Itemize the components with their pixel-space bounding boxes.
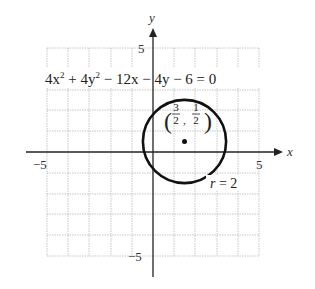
- svg-text:3: 3: [173, 101, 179, 113]
- circle-graph: ( ) 3 2 , 1 2 4x2 + 4y2 − 12x − 4y − 6 =…: [0, 0, 315, 289]
- svg-text:): ): [204, 108, 212, 134]
- svg-text:1: 1: [193, 101, 199, 113]
- equation-label: 4x2 + 4y2 − 12x − 4y − 6 = 0: [45, 70, 216, 87]
- x-min-label: −5: [33, 157, 47, 172]
- x-axis-label: x: [286, 144, 293, 159]
- svg-text:2: 2: [193, 114, 199, 126]
- y-axis-label: y: [147, 10, 155, 25]
- center-point: [182, 139, 187, 144]
- y-axis-arrow-icon: [149, 28, 157, 37]
- svg-text:(: (: [164, 108, 172, 134]
- svg-text:,: ,: [183, 114, 186, 126]
- x-axis-arrow-icon: [274, 148, 283, 156]
- y-max-label: 5: [138, 41, 145, 56]
- x-max-label: 5: [256, 157, 263, 172]
- svg-text:2: 2: [173, 114, 179, 126]
- y-min-label: −5: [128, 249, 142, 264]
- radius-label: r = 2: [210, 176, 237, 191]
